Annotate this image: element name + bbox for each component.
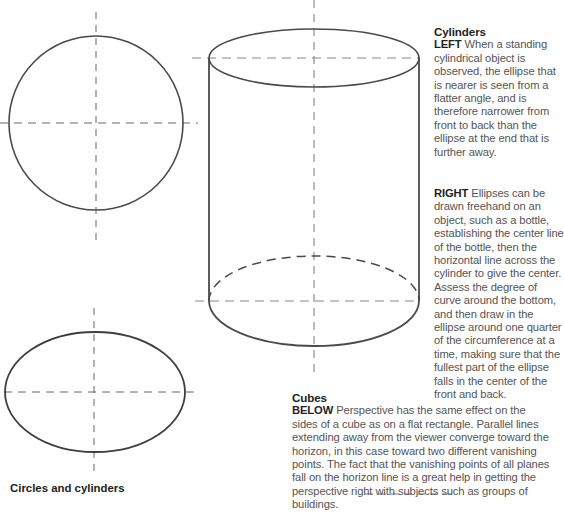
cylinders-right-text-block: RIGHT Ellipses can be drawn freehand on … <box>434 187 564 402</box>
cylinders-right-text: Ellipses can be drawn freehand on an obj… <box>434 187 564 400</box>
cylinders-left-text-block: Cylinders LEFT When a standing cylindric… <box>434 25 564 159</box>
cylinders-right-paragraph: RIGHT Ellipses can be drawn freehand on … <box>434 187 564 402</box>
circle-drawing <box>0 12 198 242</box>
cylinders-left-text: When a standing cylindrical object is ob… <box>434 38 556 157</box>
left-keyword: LEFT <box>434 38 462 50</box>
below-keyword: BELOW <box>292 404 333 416</box>
cubes-text: Perspective has the same effect on the s… <box>292 404 549 510</box>
cylinders-heading: Cylinders <box>434 25 564 38</box>
figure-caption: Circles and cylinders <box>10 482 125 494</box>
cubes-heading: Cubes <box>292 391 554 404</box>
cubes-paragraph: BELOW Perspective has the same effect on… <box>292 404 554 511</box>
cylinders-left-paragraph: LEFT When a standing cylindrical object … <box>434 38 564 159</box>
ellipse-drawing <box>4 308 200 476</box>
cubes-text-block: Cubes BELOW Perspective has the same eff… <box>292 391 554 512</box>
cylinder-drawing <box>192 0 420 378</box>
right-keyword: RIGHT <box>434 187 468 199</box>
